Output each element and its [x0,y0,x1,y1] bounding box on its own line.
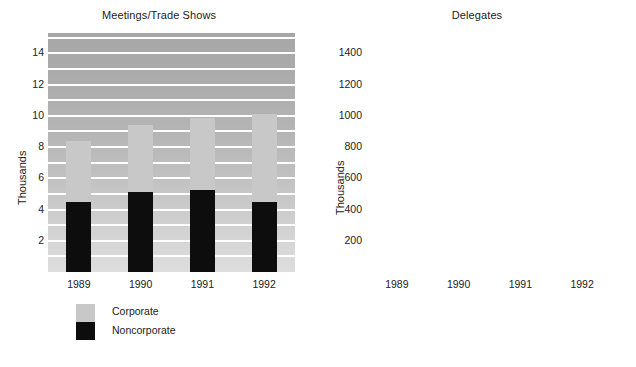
x-tick-label-1992: 1992 [552,278,612,290]
x-tick-label-1990: 1990 [429,278,489,290]
x-tick-label-1989: 1989 [367,278,427,290]
chart-title: Meetings/Trade Shows [0,9,318,21]
y-tick-label-6: 6 [2,172,44,182]
bar-segment-corporate[interactable] [128,125,153,191]
gridline [48,52,295,54]
bar-1992[interactable] [252,114,277,272]
y-tick-label-12: 12 [2,79,44,89]
bar-segment-corporate[interactable] [252,114,277,201]
bar-segment-noncorporate[interactable] [66,202,91,272]
y-tick-label-200: 200 [320,235,362,245]
gridline [48,99,295,101]
x-tick-label-1991: 1991 [172,278,232,290]
chart-panel-meetings-trade-shows: Meetings/Trade Shows Thousands 246810121… [0,0,318,367]
y-tick-label-8: 8 [2,141,44,151]
x-tick-label-1992: 1992 [234,278,294,290]
y-tick-label-14: 14 [2,47,44,57]
x-tick-label-1990: 1990 [111,278,171,290]
y-tick-label-1400: 1400 [320,47,362,57]
legend-swatch-noncorporate [76,322,95,340]
chart-panel-delegates: Delegates Thousands 20040060080010001200… [318,0,636,367]
bar-1989[interactable] [66,141,91,272]
legend-label-corporate: Corporate [112,305,159,317]
y-tick-label-4: 4 [2,204,44,214]
y-tick-label-1000: 1000 [320,110,362,120]
bar-segment-noncorporate[interactable] [128,192,153,272]
y-tick-label-10: 10 [2,110,44,120]
y-tick-label-400: 400 [320,204,362,214]
y-tick-label-600: 600 [320,172,362,182]
bar-segment-noncorporate[interactable] [190,190,215,272]
y-tick-label-1200: 1200 [320,79,362,89]
y-tick-label-800: 800 [320,141,362,151]
y-tick-label-2: 2 [2,235,44,245]
bar-1991[interactable] [190,118,215,272]
chart-title: Delegates [318,9,636,21]
gridline [48,37,295,39]
bar-segment-noncorporate[interactable] [252,202,277,272]
legend-swatch-corporate [76,304,95,322]
gridline [48,68,295,70]
legend-swatch [76,304,95,340]
bar-segment-corporate[interactable] [190,118,215,190]
x-tick-label-1989: 1989 [49,278,109,290]
gridline [48,84,295,86]
bar-segment-corporate[interactable] [66,141,91,202]
x-tick-label-1991: 1991 [490,278,550,290]
figure-canvas: Meetings/Trade Shows Thousands 246810121… [0,0,636,367]
legend-label-noncorporate: Noncorporate [112,324,176,336]
bar-1990[interactable] [128,125,153,272]
plot-area [48,33,295,272]
